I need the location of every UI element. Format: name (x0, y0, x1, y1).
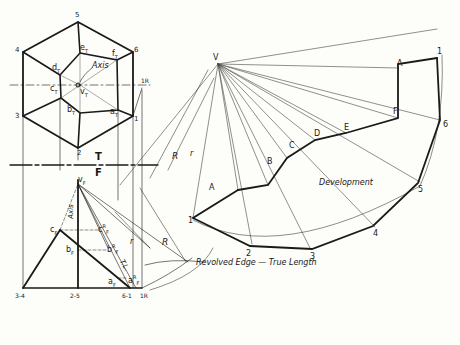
dev-3: 3 (310, 253, 315, 261)
label-bFR: bRF (107, 244, 118, 255)
label-vF: vF (78, 176, 86, 186)
label-vT: vT (80, 88, 88, 98)
dev-A-lower: A (209, 184, 214, 192)
development-upper-edge (238, 58, 437, 190)
label-aT: aT (110, 108, 118, 118)
vertex-1: 1 (134, 116, 138, 123)
dev-dim-r: r (190, 150, 193, 158)
label-fT: fT (112, 50, 118, 60)
label-aFR: aRF (128, 275, 139, 286)
label-cT: cT (50, 85, 57, 95)
base-label-1R: 1R (140, 293, 148, 299)
dim-R-front: R (162, 238, 168, 247)
label-bF: bF (66, 246, 74, 256)
dev-apex-V: V (213, 54, 218, 62)
label-eT: eT (80, 44, 88, 54)
vertex-2: 2 (77, 150, 81, 157)
label-dT: dT (52, 64, 60, 74)
dev-1-right: 1 (437, 48, 442, 56)
label-bT: bT (67, 106, 75, 116)
drawing-canvas (0, 0, 460, 345)
dev-4: 4 (373, 230, 378, 238)
axis-label-top: Axis (92, 62, 109, 70)
dev-C: C (289, 142, 295, 150)
dev-F: F (393, 108, 398, 116)
dev-1-left: 1 (188, 217, 193, 225)
callout-revolved-edge: Revolved Edge — True Length (196, 259, 317, 267)
ref-line-T: T (95, 152, 102, 162)
vertex-4: 4 (15, 47, 19, 54)
vertex-6: 6 (134, 47, 138, 54)
dev-title: Development (319, 179, 373, 187)
dev-5: 5 (418, 186, 423, 194)
development-lower-edge (193, 58, 440, 249)
dim-r-front: r (130, 238, 133, 246)
base-label-6-1: 6-1 (122, 293, 132, 299)
vertex-5: 5 (75, 12, 79, 19)
label-cF: cF (50, 226, 57, 236)
base-label-2-5: 2-5 (70, 293, 80, 299)
ref-line-F: F (95, 168, 102, 178)
dev-B: B (267, 158, 273, 166)
dev-A-upper: A (397, 60, 402, 68)
dev-6: 6 (443, 121, 448, 129)
dev-dim-R: R (172, 152, 178, 161)
label-cFR: cRF (98, 224, 109, 235)
label-1R-top: 1R (141, 78, 149, 84)
dev-2: 2 (246, 250, 251, 258)
axis-label-front: Axis (68, 204, 75, 219)
base-label-3-4: 3-4 (15, 293, 25, 299)
label-aF: aF (108, 278, 116, 288)
vertex-3: 3 (15, 113, 19, 120)
dev-D: D (314, 130, 320, 138)
dev-E: E (344, 124, 349, 132)
